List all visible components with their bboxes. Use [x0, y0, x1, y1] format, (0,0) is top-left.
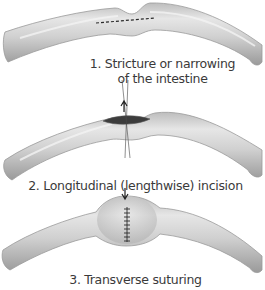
caption-step-1-line-1: 1. Stricture or narrowing	[30, 56, 265, 71]
caption-step-3: 3. Transverse suturing	[3, 272, 265, 287]
intestine-sutured	[2, 196, 262, 273]
caption-step-2: 2. Longitudinal (lengthwise) incision	[3, 178, 265, 193]
caption-step-1-line-2: of the intestine	[30, 71, 265, 86]
up-arrow-icon	[121, 101, 127, 112]
caption-step-1: 1. Stricture or narrowing of the intesti…	[30, 56, 265, 86]
strictureplasty-illustration	[0, 0, 265, 290]
